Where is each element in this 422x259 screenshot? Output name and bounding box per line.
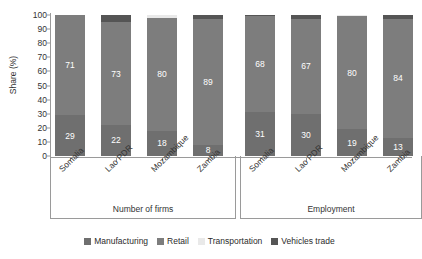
bar-stack: 889	[193, 15, 223, 156]
y-axis-tick-label: 30	[38, 109, 47, 119]
bar-segment-vt	[101, 15, 131, 22]
bar-segment-rt: 84	[383, 19, 413, 137]
bar-stack: 2971	[55, 15, 85, 156]
legend-item[interactable]: Vehicles trade	[271, 236, 334, 246]
legend-swatch-icon	[198, 238, 205, 245]
bar-segment-vt	[383, 15, 413, 19]
chart-legend: ManufacturingRetailTransportationVehicle…	[0, 236, 419, 246]
bar-value-label: 31	[245, 130, 275, 139]
bar-value-label: 30	[291, 131, 321, 140]
bar-stack: 1980	[337, 15, 367, 156]
group-title: Employment	[240, 204, 422, 214]
y-axis-tick-label: 10	[38, 137, 47, 147]
legend-item[interactable]: Transportation	[198, 236, 263, 246]
y-axis-tick-mark	[47, 43, 50, 44]
bar-segment-tr	[147, 15, 177, 18]
bar-stack: 1880	[147, 15, 177, 156]
y-axis-tick-label: 40	[38, 95, 47, 105]
bar-stack: 1384	[383, 15, 413, 156]
legend-swatch-icon	[84, 238, 91, 245]
y-axis-tick-label: 70	[38, 52, 47, 62]
y-axis-tick-mark	[47, 15, 50, 16]
y-axis-tick-mark	[47, 29, 50, 30]
bar-value-label: 68	[245, 60, 275, 69]
bar-segment-rt: 73	[101, 22, 131, 125]
bar-segment-vt	[193, 15, 223, 19]
y-axis-tick-mark	[47, 71, 50, 72]
y-axis-tick-label: 90	[38, 24, 47, 34]
bar-value-label: 73	[101, 69, 131, 78]
y-axis-tick-mark	[47, 127, 50, 128]
bar-segment-rt: 89	[193, 19, 223, 144]
legend-label: Retail	[167, 236, 189, 246]
y-axis-tick-label: 100	[33, 10, 47, 20]
y-axis-tick-label: 80	[38, 38, 47, 48]
bar-stack: 3067	[291, 15, 321, 156]
legend-item[interactable]: Manufacturing	[84, 236, 148, 246]
y-axis-title: Share (%)	[8, 40, 18, 110]
y-axis-tick-label: 60	[38, 66, 47, 76]
bar-value-label: 71	[55, 61, 85, 70]
y-axis-tick-label: 50	[38, 81, 47, 91]
legend-label: Manufacturing	[94, 236, 148, 246]
bar-segment-vt	[291, 15, 321, 19]
plot-area: 0102030405060708090100297122731880889316…	[51, 15, 411, 156]
y-axis-tick-mark	[47, 141, 50, 142]
group-title: Number of firms	[50, 204, 236, 214]
legend-swatch-icon	[271, 238, 278, 245]
bar-value-label: 80	[147, 70, 177, 79]
legend-label: Vehicles trade	[281, 236, 334, 246]
bar-segment-rt: 80	[147, 18, 177, 131]
bar-value-label: 89	[193, 78, 223, 87]
bar-value-label: 80	[337, 69, 367, 78]
bar-segment-rt: 67	[291, 19, 321, 113]
legend-swatch-icon	[157, 238, 164, 245]
legend-item[interactable]: Retail	[157, 236, 189, 246]
bar-value-label: 67	[291, 62, 321, 71]
y-axis-tick-mark	[47, 85, 50, 86]
y-axis-tick-label: 20	[38, 123, 47, 133]
bar-segment-rt: 80	[337, 16, 367, 129]
bar-segment-rt: 68	[245, 16, 275, 112]
legend-label: Transportation	[208, 236, 263, 246]
y-axis-tick-mark	[47, 57, 50, 58]
bar-value-label: 29	[55, 131, 85, 140]
bar-stack: 2273	[101, 15, 131, 156]
bar-value-label: 84	[383, 74, 413, 83]
bar-stack: 3168	[245, 15, 275, 156]
y-axis-tick-mark	[47, 99, 50, 100]
bar-segment-tr	[337, 15, 367, 16]
y-axis-tick-mark	[47, 113, 50, 114]
bar-segment-vt	[245, 15, 275, 16]
bar-segment-rt: 71	[55, 15, 85, 115]
